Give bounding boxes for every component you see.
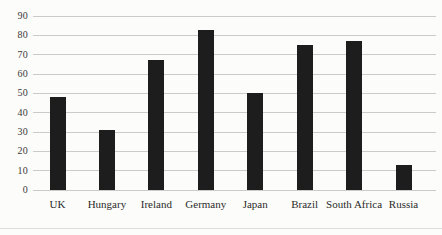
gridline-20 [33, 151, 436, 152]
y-tick-label-30: 30 [0, 126, 28, 138]
bar-south-africa [346, 41, 362, 190]
bottom-rule [0, 228, 442, 229]
x-label-ireland: Ireland [128, 198, 184, 211]
bar-ireland [148, 60, 164, 190]
bar-germany [198, 30, 214, 190]
bar-uk [50, 97, 66, 190]
bar-chart-figure: 0102030405060708090 UKHungaryIrelandGerm… [0, 0, 442, 235]
plot-area [33, 16, 436, 190]
x-label-germany: Germany [178, 198, 234, 211]
gridline-90 [33, 16, 436, 17]
x-label-russia: Russia [376, 198, 432, 211]
bar-brazil [297, 45, 313, 190]
x-label-south-africa: South Africa [326, 198, 382, 211]
y-tick-label-0: 0 [0, 184, 28, 196]
gridline-40 [33, 112, 436, 113]
gridline-0 [33, 190, 436, 191]
x-label-uk: UK [30, 198, 86, 211]
y-tick-label-20: 20 [0, 145, 28, 157]
bar-japan [247, 93, 263, 190]
gridline-60 [33, 74, 436, 75]
y-tick-label-50: 50 [0, 87, 28, 99]
gridline-30 [33, 132, 436, 133]
y-tick-label-40: 40 [0, 107, 28, 119]
x-label-brazil: Brazil [277, 198, 333, 211]
y-tick-label-60: 60 [0, 68, 28, 80]
gridline-80 [33, 35, 436, 36]
y-tick-label-80: 80 [0, 29, 28, 41]
bar-russia [396, 165, 412, 190]
x-label-japan: Japan [227, 198, 283, 211]
y-tick-label-10: 10 [0, 165, 28, 177]
gridline-50 [33, 93, 436, 94]
y-tick-label-90: 90 [0, 10, 28, 22]
x-label-hungary: Hungary [79, 198, 135, 211]
gridline-10 [33, 170, 436, 171]
gridline-70 [33, 54, 436, 55]
y-tick-label-70: 70 [0, 49, 28, 61]
bar-hungary [99, 130, 115, 190]
